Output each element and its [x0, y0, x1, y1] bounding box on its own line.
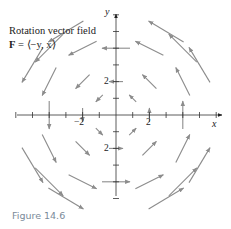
x-tick-label-2: 2 — [146, 117, 151, 127]
field-arrow — [22, 148, 43, 183]
field-arrow — [48, 188, 83, 209]
field-arrow — [135, 41, 163, 55]
field-arrow — [129, 95, 136, 102]
y-axis-label: y — [105, 6, 109, 17]
field-arrow — [189, 47, 210, 82]
field-arrow — [35, 168, 63, 196]
field-arrow — [96, 128, 103, 135]
field-arrow — [169, 34, 197, 62]
field-expression: = ⟨−y, x⟩ — [15, 39, 55, 50]
field-arrow — [96, 95, 103, 102]
field-arrow — [76, 141, 90, 155]
figure-caption: Figure 14.6 — [12, 210, 65, 221]
field-arrow — [42, 134, 56, 162]
field-arrow — [149, 21, 184, 42]
x-axis-label: x — [212, 118, 216, 129]
figure-title: Rotation vector field — [9, 25, 96, 36]
field-arrow — [149, 188, 184, 209]
field-arrow — [69, 41, 97, 55]
field-arrow — [129, 128, 136, 135]
field-arrow — [169, 168, 197, 196]
field-formula: F = ⟨−y, x⟩ — [9, 38, 56, 50]
field-arrow — [76, 75, 90, 89]
field-arrow — [176, 68, 190, 96]
y-tick-label-neg2: 2 — [104, 143, 109, 153]
field-arrow — [176, 134, 190, 162]
field-arrow — [69, 175, 97, 189]
y-tick-label-2: 2 — [104, 76, 109, 86]
field-arrow — [189, 148, 210, 183]
field-arrow — [135, 175, 163, 189]
field-arrow — [142, 75, 156, 89]
field-arrow — [142, 141, 156, 155]
field-arrow — [42, 68, 56, 96]
x-tick-label-neg2: −2 — [74, 117, 84, 127]
field-arrow — [22, 47, 43, 82]
